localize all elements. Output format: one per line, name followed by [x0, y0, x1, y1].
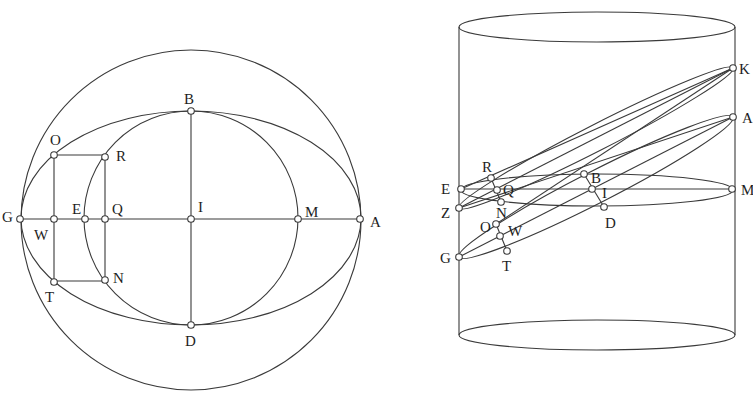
label-t: T [45, 289, 54, 305]
point-z [456, 205, 463, 212]
point-m [295, 216, 302, 223]
label-z: Z [441, 205, 450, 221]
label-g: G [440, 250, 451, 266]
label-q: Q [112, 201, 123, 217]
geometry-figure: B O R G W E Q I M A T N D [0, 0, 753, 405]
point-n [102, 277, 109, 284]
point-g [456, 254, 463, 261]
left-diagram: B O R G W E Q I M A T N D [2, 50, 381, 390]
point-w [497, 233, 504, 240]
point-a [730, 114, 737, 121]
label-d: D [185, 333, 196, 349]
point-r [488, 175, 495, 182]
point-d [188, 322, 195, 329]
point-m [729, 186, 736, 193]
label-d: D [605, 215, 616, 231]
point-g [17, 216, 24, 223]
label-o: O [50, 132, 61, 148]
point-a [357, 216, 364, 223]
point-o [51, 152, 58, 159]
right-diagram: K A M E Z G R Q N O W T B I D [440, 12, 753, 350]
label-w: W [34, 227, 49, 243]
point-t [504, 248, 511, 255]
label-n: N [113, 270, 124, 286]
label-r: R [116, 148, 126, 164]
label-e: E [441, 181, 450, 197]
label-g: G [2, 209, 13, 225]
label-t: T [502, 258, 511, 274]
label-a: A [742, 110, 753, 126]
point-b [188, 108, 195, 115]
label-b: B [184, 91, 194, 107]
rectangle-ornt [54, 155, 105, 281]
point-q [102, 216, 109, 223]
point-e [458, 186, 465, 193]
cylinder-bottom-ellipse [459, 320, 735, 350]
point-r [102, 154, 109, 161]
label-b: B [591, 170, 601, 186]
label-k: K [739, 61, 750, 77]
point-o [493, 221, 500, 228]
label-e: E [72, 201, 81, 217]
point-i [589, 186, 596, 193]
label-q: Q [503, 182, 514, 198]
point-i [188, 216, 195, 223]
point-t [51, 279, 58, 286]
label-m: M [741, 182, 753, 198]
label-r: R [482, 159, 492, 175]
label-n: N [496, 205, 507, 221]
point-b [581, 171, 588, 178]
label-o: O [480, 219, 491, 235]
label-m: M [305, 204, 318, 220]
label-a: A [370, 214, 381, 230]
cylinder-top-ellipse [459, 12, 735, 42]
point-w [51, 216, 58, 223]
label-i: I [602, 185, 607, 201]
point-d [601, 204, 608, 211]
point-e [82, 216, 89, 223]
label-i: I [198, 199, 203, 215]
point-k [730, 65, 737, 72]
point-q [494, 187, 501, 194]
label-w: W [508, 223, 523, 239]
